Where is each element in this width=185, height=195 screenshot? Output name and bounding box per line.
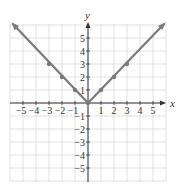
y-tick-label: 2 — [80, 72, 85, 83]
x-tick-label: −4 — [29, 105, 40, 116]
x-tick-label: 1 — [99, 105, 104, 116]
data-point — [47, 62, 51, 66]
data-point — [112, 75, 116, 79]
data-point — [125, 62, 129, 66]
y-tick-label: −3 — [74, 137, 85, 148]
x-tick-label: 3 — [125, 105, 130, 116]
data-point — [60, 75, 64, 79]
y-axis-label: y — [84, 9, 90, 21]
y-tick-label: 4 — [80, 46, 85, 57]
x-tick-label: −3 — [42, 105, 53, 116]
x-tick-label: 4 — [138, 105, 143, 116]
x-tick-label: −2 — [55, 105, 66, 116]
data-point — [86, 101, 90, 105]
x-tick-label: −5 — [16, 105, 27, 116]
y-tick-label: 5 — [80, 33, 85, 44]
x-axis-arrow-icon — [160, 101, 166, 106]
x-axis-label: x — [169, 97, 175, 109]
data-point — [99, 88, 103, 92]
y-tick-label: −5 — [74, 163, 85, 174]
data-point — [73, 88, 77, 92]
y-tick-label: −1 — [74, 111, 85, 122]
x-tick-label: 2 — [112, 105, 117, 116]
y-tick-label: 3 — [80, 59, 85, 70]
y-tick-label: −4 — [74, 150, 85, 161]
x-tick-label: 5 — [151, 105, 156, 116]
absolute-value-graph: −5−4−3−2−11234554321−1−2−3−4−5 x y — [0, 0, 185, 195]
y-tick-label: −2 — [74, 124, 85, 135]
